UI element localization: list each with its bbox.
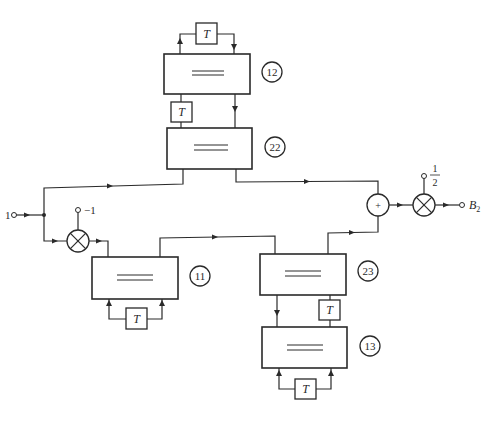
block-11-group: 11 T bbox=[92, 235, 275, 330]
arrow-up-icon bbox=[106, 300, 112, 306]
wire bbox=[109, 299, 126, 319]
wire bbox=[147, 299, 162, 319]
input-label: 1 bbox=[5, 209, 11, 221]
negate-multiplier: −1 bbox=[67, 204, 108, 257]
wire-to-block-23 bbox=[160, 236, 275, 257]
wire-to-summer bbox=[328, 216, 378, 254]
output-label: B2 bbox=[469, 198, 480, 214]
summer: + bbox=[367, 194, 413, 216]
coefficient-denominator: 2 bbox=[433, 177, 438, 188]
arrow-up-icon bbox=[159, 300, 165, 306]
half-multiplier: 1 2 B2 bbox=[413, 163, 480, 216]
coefficient-label: −1 bbox=[84, 204, 96, 216]
arrow-right-icon bbox=[349, 230, 355, 235]
wire bbox=[316, 368, 331, 389]
arrow-down-icon bbox=[274, 310, 280, 316]
output-terminal bbox=[460, 203, 465, 208]
block-22-tag-label: 22 bbox=[270, 141, 281, 153]
link-23-13: T bbox=[274, 295, 340, 327]
block-diagram: T 12 T 22 1 −1 bbox=[0, 0, 498, 422]
arrow-down-icon bbox=[231, 44, 237, 50]
block-11-tag-label: 11 bbox=[195, 270, 206, 282]
arrow-right-icon bbox=[304, 179, 310, 184]
block-22 bbox=[167, 128, 252, 169]
arrow-up-icon bbox=[328, 370, 334, 376]
block-23 bbox=[260, 254, 346, 295]
wire bbox=[44, 215, 67, 241]
coefficient-terminal bbox=[76, 208, 81, 213]
block-12-group: T 12 bbox=[164, 23, 282, 94]
block-13-group: 13 T bbox=[262, 327, 380, 399]
arrow-up-icon bbox=[177, 38, 183, 44]
arrow-down-icon bbox=[232, 106, 238, 112]
block-12 bbox=[164, 54, 250, 94]
arrow-up-icon bbox=[276, 370, 282, 376]
arrow-right-icon bbox=[52, 239, 58, 244]
block-11 bbox=[92, 257, 178, 299]
block-22-group: 22 bbox=[167, 128, 285, 169]
arrow-right-icon bbox=[107, 184, 113, 189]
coefficient-terminal bbox=[422, 174, 427, 179]
coefficient-numerator: 1 bbox=[433, 163, 438, 174]
block-13 bbox=[262, 327, 347, 368]
link-12-22: T bbox=[171, 94, 238, 128]
output-label-subscript: 2 bbox=[476, 205, 480, 214]
link-22-summer bbox=[236, 169, 378, 194]
arrow-right-icon bbox=[212, 235, 218, 240]
arrow-right-icon bbox=[24, 213, 30, 218]
block-23-group: 23 bbox=[260, 216, 378, 295]
arrow-right-icon bbox=[443, 203, 449, 208]
arrow-right-icon bbox=[96, 239, 102, 244]
plus-icon: + bbox=[375, 200, 381, 211]
input-terminal bbox=[12, 213, 17, 218]
arrow-right-icon bbox=[397, 203, 403, 208]
wire bbox=[279, 368, 295, 389]
block-12-tag-label: 12 bbox=[267, 66, 278, 78]
wire-to-block-11 bbox=[89, 241, 108, 257]
block-13-tag-label: 13 bbox=[365, 340, 377, 352]
wire-to-block-22 bbox=[44, 169, 183, 215]
block-23-tag-label: 23 bbox=[363, 265, 375, 277]
